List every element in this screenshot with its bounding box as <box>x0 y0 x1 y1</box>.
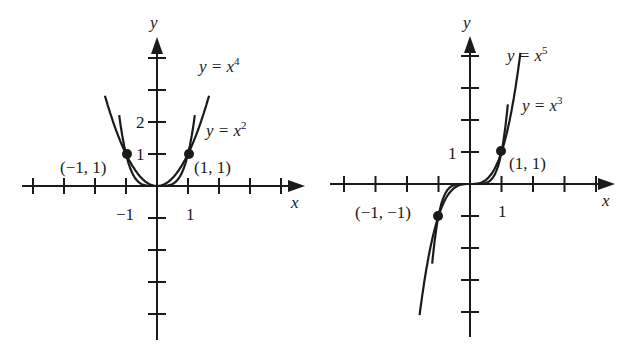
point-1-1 <box>184 149 194 159</box>
left-x-axis-label: x <box>291 194 299 211</box>
right-tick-label-x-1: 1 <box>498 203 507 220</box>
point-1-1-right <box>496 146 506 156</box>
left-y-axis-label: y <box>150 14 158 31</box>
point-neg1-1 <box>122 149 132 159</box>
label-y-equals-x3: y = x3 <box>522 97 563 114</box>
point-neg1-neg1 <box>433 211 443 221</box>
right-point-label-neg: (−1, −1) <box>355 204 411 221</box>
left-tick-label-y-1: 1 <box>136 146 145 163</box>
right-point-label-pos: (1, 1) <box>509 155 546 172</box>
right-tick-label-y-1: 1 <box>448 145 457 162</box>
left-x-arrow-icon <box>288 180 305 192</box>
left-y-arrow-icon <box>151 37 163 54</box>
left-point-label-pos: (1, 1) <box>194 159 231 176</box>
left-point-label-neg: (−1, 1) <box>60 159 106 176</box>
label-y-equals-x5: y = x5 <box>507 47 548 64</box>
right-graph <box>330 36 615 337</box>
right-x-axis-label: x <box>602 192 610 209</box>
right-x-arrow-icon <box>598 178 615 190</box>
left-tick-label-x-neg1: −1 <box>116 206 134 223</box>
left-tick-label-x-1: 1 <box>186 206 195 223</box>
right-y-arrow-icon <box>464 36 476 53</box>
label-y-equals-x2: y = x2 <box>206 122 247 139</box>
left-tick-label-y-2: 2 <box>136 114 145 131</box>
left-graph <box>22 37 305 340</box>
label-y-equals-x4: y = x4 <box>199 58 240 75</box>
right-y-axis-label: y <box>463 14 471 31</box>
